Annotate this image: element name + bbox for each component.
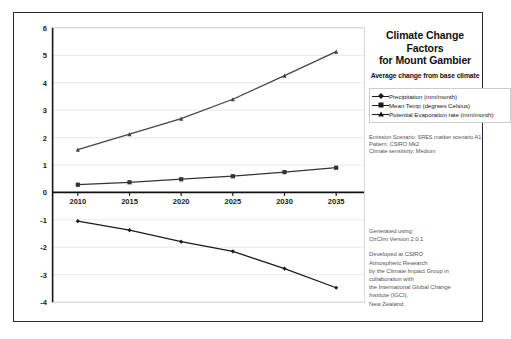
chart-side-panel: Climate Change Factors for Mount Gambier… [369, 29, 481, 156]
y-tick-label: 4 [43, 78, 47, 87]
chart-frame: 6543210-1-2-3-4 201020152020202520302035… [13, 12, 483, 322]
credits-spacer [369, 243, 499, 250]
y-tick-label: 3 [43, 106, 47, 115]
credits-line-4: collaboration with [369, 275, 499, 283]
x-tick-label: 2030 [276, 197, 293, 206]
chart-subtitle: Average change from base climate [369, 72, 481, 79]
legend-item-potential-evaporation: Potential Evaporation rate (mm/month) [372, 110, 508, 119]
y-tick-label: 1 [43, 161, 47, 170]
y-tick-label: 0 [43, 188, 47, 197]
metadata-climate-sensitivity: Climate sensitivity: Medium [369, 148, 481, 155]
credits-line-1: Developed at CSIRO [369, 250, 499, 258]
legend-marker-diamond-icon [372, 92, 389, 101]
y-tick-label: 2 [43, 133, 47, 142]
x-tick-label: 2020 [173, 197, 190, 206]
credits-line-6: Institute (IGCI), [369, 291, 499, 299]
chart-title: Climate Change Factors for Mount Gambier [369, 29, 481, 67]
legend-label-precipitation: Precipitation (mm/month) [389, 93, 457, 100]
generated-credits: Generated using: OzClim Version 2.0.1 De… [369, 227, 499, 308]
credits-line-2: Atmospheric Research [369, 259, 499, 267]
y-tick-label: -3 [40, 270, 47, 279]
credits-line-3: by the Climate Impact Group in [369, 267, 499, 275]
credits-line-7: New Zealand. [369, 300, 499, 308]
generated-using-label: Generated using: [369, 227, 499, 235]
credits-line-5: the International Global Change [369, 283, 499, 291]
legend-item-precipitation: Precipitation (mm/month) [372, 92, 508, 101]
y-tick-label: 6 [43, 24, 47, 33]
plot-svg [52, 28, 364, 302]
y-tick-label: -1 [40, 215, 47, 224]
y-tick-label: -2 [40, 243, 47, 252]
legend-item-mean-temp: Mean Temp (degrees Celsius) [372, 101, 508, 110]
chart-title-line-2: for Mount Gambier [369, 54, 481, 67]
generated-version: OzClim Version 2.0.1 [369, 235, 499, 243]
chart-title-line-1: Climate Change Factors [369, 29, 481, 54]
chart-legend: Precipitation (mm/month) Mean Temp (degr… [369, 88, 511, 123]
plot-area: 6543210-1-2-3-4 201020152020202520302035 [51, 27, 365, 303]
metadata-emission-scenario: Emission Scenario: SRES marker scenario … [369, 134, 481, 141]
x-tick-label: 2035 [328, 197, 345, 206]
metadata-pattern: Pattern: CSIRO Mk2 [369, 141, 481, 148]
y-tick-label: 5 [43, 51, 47, 60]
x-tick-label: 2025 [224, 197, 241, 206]
legend-marker-triangle-icon [372, 110, 389, 119]
x-tick-label: 2015 [121, 197, 138, 206]
x-tick-label: 2010 [69, 197, 86, 206]
legend-marker-square-icon [372, 101, 389, 110]
scenario-metadata: Emission Scenario: SRES marker scenario … [369, 134, 481, 156]
legend-label-mean-temp: Mean Temp (degrees Celsius) [389, 102, 470, 109]
y-tick-label: -4 [40, 298, 47, 307]
legend-label-potential-evaporation: Potential Evaporation rate (mm/month) [389, 111, 493, 118]
